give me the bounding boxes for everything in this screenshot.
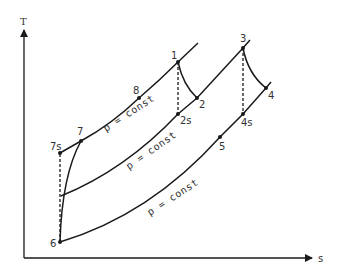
label-2s: 2s [180, 115, 192, 126]
label-6: 6 [50, 238, 56, 249]
label-3: 3 [240, 33, 246, 44]
label-8: 8 [133, 85, 139, 96]
label-2: 2 [199, 99, 205, 110]
point-4s [241, 112, 245, 116]
point-6 [58, 240, 62, 244]
ts-diagram: T s 1 2 2s 3 4 4s 5 [0, 0, 348, 279]
isobar-label-top: p = const [101, 92, 156, 133]
expansion-1-2 [178, 62, 197, 98]
label-4: 4 [268, 90, 274, 101]
label-4s: 4s [241, 117, 253, 128]
isobar-bottom [60, 82, 271, 242]
point-5 [218, 135, 222, 139]
diagram-canvas: T s 1 2 2s 3 4 4s 5 [0, 0, 348, 279]
isobar-label-middle: p = const [124, 129, 178, 172]
point-7 [79, 139, 83, 143]
expansion-3-4 [243, 48, 266, 88]
isobar-middle [61, 40, 250, 196]
point-3 [241, 46, 245, 50]
label-1: 1 [171, 50, 177, 61]
y-axis-label: T [20, 16, 27, 27]
label-5: 5 [219, 141, 225, 152]
label-7s: 7s [50, 141, 62, 152]
label-7: 7 [77, 126, 83, 137]
x-axis-label: s [318, 253, 323, 264]
